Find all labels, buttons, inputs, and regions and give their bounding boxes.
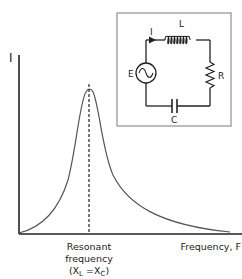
- resonance-label-line3: (XL =XC): [69, 265, 109, 278]
- inductor-coil-icon: [165, 36, 190, 44]
- capacitor-label: C: [171, 115, 177, 125]
- resonance-label-line1: Resonant: [67, 241, 112, 252]
- resonance-diagram: I Resonant frequency (XL =XC) Frequency,…: [0, 0, 242, 279]
- current-label: I: [150, 27, 153, 37]
- x-axis-label: Frequency, F: [180, 241, 241, 252]
- resistor-label: R: [218, 71, 224, 81]
- circuit-inset: I L R C E: [117, 13, 231, 126]
- inductor-label: L: [179, 19, 184, 29]
- source-label: E: [128, 69, 134, 79]
- inset-border: [117, 13, 231, 126]
- y-axis-label: I: [9, 51, 13, 65]
- resonance-label-line2: frequency: [65, 253, 113, 264]
